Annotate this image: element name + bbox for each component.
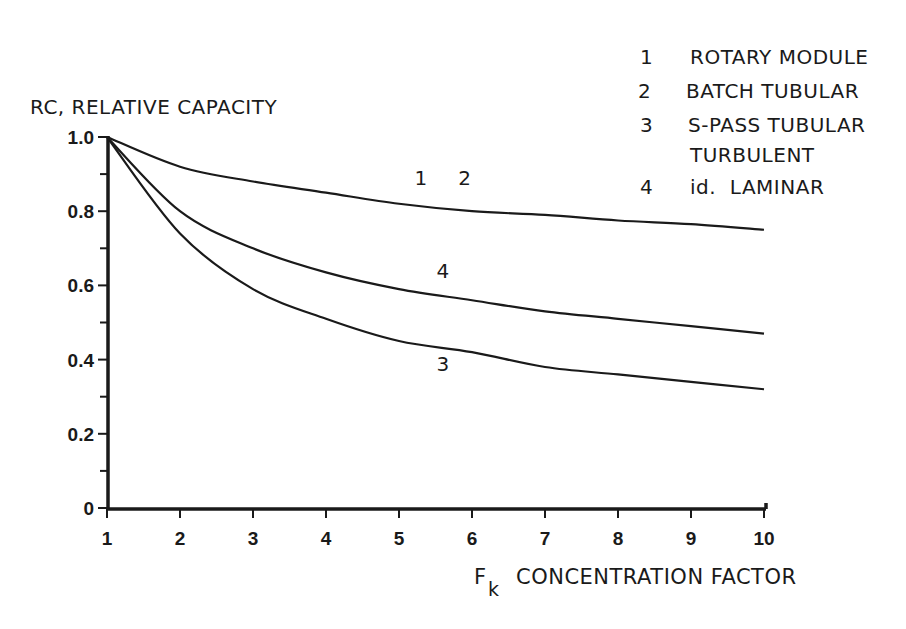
y-tick-label: 0.4 — [68, 350, 95, 371]
curve-label-3: 3 — [436, 352, 449, 376]
y-tick-label: 1.0 — [68, 127, 94, 148]
legend-num-4: 4 — [640, 175, 653, 199]
x-axis-label: F k CONCENTRATION FACTOR — [474, 565, 797, 600]
x-tick-label: 3 — [248, 528, 259, 549]
legend-text-3b: TURBULENT — [689, 143, 815, 167]
x-tick-label: 6 — [467, 528, 478, 549]
x-axis-label-text: CONCENTRATION FACTOR — [516, 565, 797, 589]
x-tick-label: 8 — [613, 528, 624, 549]
legend-text-4: id. LAMINAR — [690, 175, 824, 199]
curve-1 — [107, 137, 764, 230]
y-tick-label: 0.8 — [68, 201, 94, 222]
x-tick-label: 2 — [175, 528, 186, 549]
x-tick-label: 4 — [321, 528, 332, 549]
y-ticks: 00.20.40.60.81.0 — [68, 127, 108, 519]
y-axis-label: RC, RELATIVE CAPACITY — [30, 95, 277, 119]
legend-num-1: 1 — [640, 45, 653, 69]
y-tick-label: 0.6 — [68, 275, 94, 296]
curve-label-2: 2 — [458, 166, 471, 190]
x-tick-label: 1 — [102, 528, 113, 549]
x-tick-label: 7 — [540, 528, 551, 549]
legend-num-3: 3 — [640, 113, 653, 137]
x-tick-label: 9 — [686, 528, 697, 549]
legend: 1 ROTARY MODULE 2 BATCH TUBULAR 3 S-PASS… — [638, 45, 869, 199]
legend-num-2: 2 — [638, 79, 651, 103]
legend-text-2: BATCH TUBULAR — [686, 79, 859, 103]
legend-text-3: S-PASS TUBULAR — [688, 113, 866, 137]
curve-label-1: 1 — [415, 166, 428, 190]
curve-label-4: 4 — [436, 259, 449, 283]
x-tick-label: 10 — [753, 528, 774, 549]
x-axis-label-subscript: k — [488, 578, 500, 600]
curve-2 — [107, 137, 764, 334]
y-tick-label: 0.2 — [68, 424, 94, 445]
x-axis-label-f: F — [474, 565, 487, 589]
x-ticks: 12345678910 — [102, 509, 775, 549]
x-tick-label: 5 — [394, 528, 405, 549]
y-tick-label: 0 — [83, 498, 94, 519]
chart: RC, RELATIVE CAPACITY 1 ROTARY MODULE 2 … — [0, 0, 906, 629]
legend-text-1: ROTARY MODULE — [690, 45, 869, 69]
